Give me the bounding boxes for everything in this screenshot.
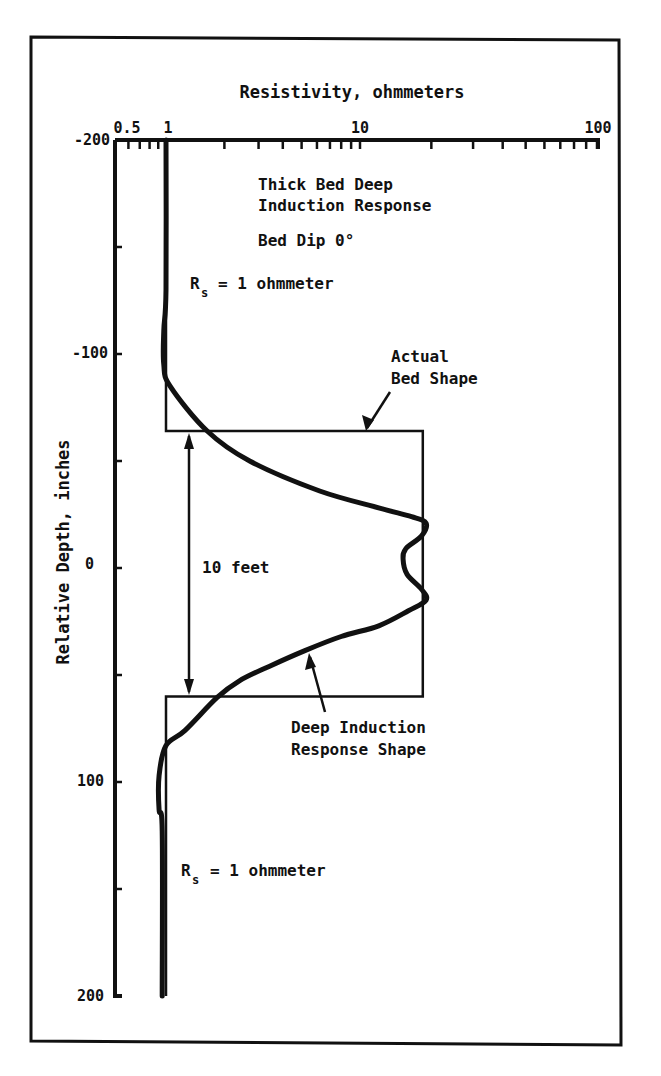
rs-bottom-label-main: R (181, 861, 191, 880)
response-shape-label-line2: Response Shape (291, 740, 426, 759)
rs-top-label-sub: s (201, 286, 208, 300)
bed-shape-label-line2: Bed Shape (391, 369, 478, 388)
x-tick-label-1: 1 (163, 119, 172, 137)
thickness-arrow-down-icon (184, 679, 194, 695)
thickness-arrow-up-icon (184, 433, 194, 449)
x-tick-label-100: 100 (584, 119, 611, 137)
bed-dip-label: Bed Dip 0° (258, 231, 354, 250)
x-tick-label-0.5: 0.5 (113, 119, 140, 137)
x-tick-label-10: 10 (351, 119, 369, 137)
y-tick-label-200: 200 (77, 987, 104, 1005)
rs-top-label-value: = 1 ohmmeter (218, 274, 334, 293)
rs-bottom-label-value: = 1 ohmmeter (210, 861, 326, 880)
y-tick-label-0: 0 (85, 555, 94, 573)
response-shape-arrowhead-icon (305, 653, 316, 670)
y-axis-title: Relative Depth, inches (53, 439, 73, 664)
response-shape-label-line1: Deep Induction (291, 718, 426, 737)
chart-title-line2: Induction Response (258, 196, 431, 215)
induction-response-figure: Resistivity, ohmmeters 0.5 1 10 100 -200… (0, 0, 661, 1076)
y-tick-label-minus100: -100 (72, 344, 108, 362)
y-tick-label-100: 100 (77, 772, 104, 790)
bed-shape-label-line1: Actual (391, 347, 449, 366)
rs-bottom-label-sub: s (192, 873, 199, 887)
thickness-label: 10 feet (202, 558, 269, 577)
y-tick-label-minus200: -200 (74, 131, 110, 149)
x-axis-title: Resistivity, ohmmeters (239, 82, 464, 102)
chart-title-line1: Thick Bed Deep (258, 175, 393, 194)
rs-top-label-main: R (190, 274, 200, 293)
